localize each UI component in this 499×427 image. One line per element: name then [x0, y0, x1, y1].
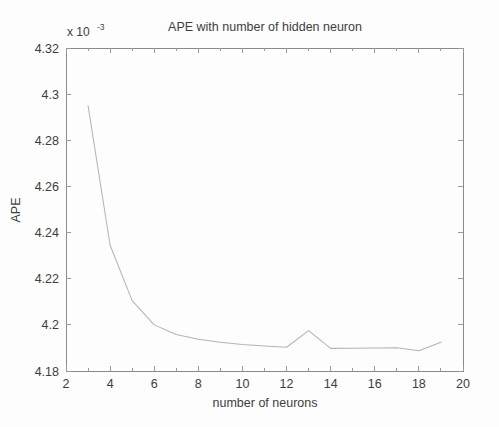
x-tick-label: 10	[235, 377, 249, 391]
x-tick-label: 4	[107, 377, 114, 391]
chart-figure: 2468101214161820 4.184.24.224.244.264.28…	[0, 0, 499, 427]
x-tick-label: 18	[412, 377, 426, 391]
y-exponent-power: -3	[97, 22, 105, 32]
x-tick-label: 8	[195, 377, 202, 391]
y-tick-label: 4.28	[35, 134, 59, 148]
figure-background	[0, 0, 499, 427]
y-tick-label: 4.26	[35, 180, 59, 194]
x-tick-label: 20	[456, 377, 470, 391]
x-tick-label: 12	[280, 377, 294, 391]
x-tick-label: 6	[151, 377, 158, 391]
x-tick-label: 14	[324, 377, 338, 391]
x-axis-label: number of neurons	[213, 396, 318, 410]
y-axis-label: APE	[9, 197, 23, 222]
y-tick-label: 4.18	[35, 365, 59, 379]
x-tick-label: 16	[368, 377, 382, 391]
y-tick-label: 4.22	[35, 272, 59, 286]
y-tick-label: 4.32	[35, 42, 59, 56]
y-tick-label: 4.24	[35, 226, 59, 240]
chart-title: APE with number of hidden neuron	[168, 20, 362, 34]
y-tick-label: 4.3	[42, 88, 59, 102]
y-tick-label: 4.2	[42, 318, 59, 332]
x-tick-label: 2	[63, 377, 70, 391]
ape-line-chart: 2468101214161820 4.184.24.224.244.264.28…	[0, 0, 499, 427]
y-exponent-base: x 10	[67, 25, 90, 39]
